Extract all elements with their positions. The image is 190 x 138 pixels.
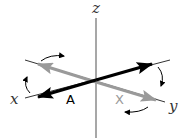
axes-diagram: z x y A X — [0, 0, 190, 138]
rotation-arrow-right-icon — [158, 67, 162, 86]
rotation-arrow-left-icon — [26, 77, 30, 93]
x-axis-label: x — [10, 90, 19, 108]
rotation-arrow-top-left-icon — [41, 56, 64, 61]
vector-a-label: A — [66, 92, 75, 107]
vector-x-forward — [96, 82, 156, 100]
vector-x-label: X — [115, 92, 124, 107]
y-axis-label: y — [168, 97, 178, 115]
vector-x — [38, 64, 96, 82]
rotation-arrow-bottom-icon — [125, 107, 148, 112]
vector-a-forward — [96, 64, 152, 80]
z-axis-label: z — [91, 0, 100, 17]
